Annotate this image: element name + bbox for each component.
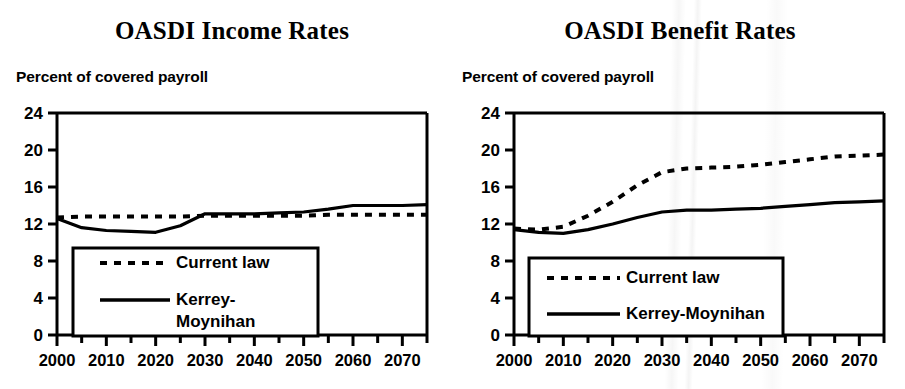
x-axis-tick-label: 2040 <box>693 351 730 369</box>
x-axis-tick-label: 2070 <box>841 351 878 369</box>
x-axis-tick-label: 2020 <box>137 351 174 369</box>
series-line-current-law <box>514 155 884 230</box>
y-axis-tick-label: 16 <box>24 178 43 197</box>
x-axis-tick-label: 2000 <box>496 351 533 369</box>
chart-panel-benefit-rates: OASDI Benefit Rates Percent of covered p… <box>452 0 904 389</box>
x-axis-tick-label: 2040 <box>236 351 273 369</box>
y-axis-tick-label: 16 <box>481 178 500 197</box>
x-axis-tick-label: 2000 <box>39 351 76 369</box>
series-line-kerrey-moynihan <box>57 205 427 233</box>
x-axis-tick-label: 2020 <box>594 351 631 369</box>
plot-area-benefit-rates: 0481216202420002010202020302040205020602… <box>452 0 904 389</box>
x-axis-tick-label: 2060 <box>335 351 372 369</box>
y-axis-tick-label: 8 <box>491 252 500 271</box>
chart-panel-income-rates: OASDI Income Rates Percent of covered pa… <box>0 0 452 389</box>
x-axis-tick-label: 2030 <box>644 351 681 369</box>
legend-label-kerrey-moynihan: Kerrey-Moynihan <box>626 304 765 323</box>
y-axis-tick-label: 8 <box>34 252 43 271</box>
x-axis-tick-label: 2060 <box>792 351 829 369</box>
y-axis-tick-label: 24 <box>24 104 43 123</box>
x-axis-tick-label: 2070 <box>384 351 421 369</box>
x-axis-tick-label: 2030 <box>187 351 224 369</box>
y-axis-tick-label: 20 <box>481 141 500 160</box>
y-axis-tick-label: 24 <box>481 104 500 123</box>
plot-area-income-rates: 0481216202420002010202020302040205020602… <box>0 0 452 389</box>
legend-label-current-law: Current law <box>626 268 720 287</box>
legend-label-kerrey-moynihan-line2: Moynihan <box>176 312 255 331</box>
y-axis-tick-label: 4 <box>491 289 501 308</box>
x-axis-tick-label: 2050 <box>742 351 779 369</box>
y-axis-tick-label: 0 <box>34 326 43 345</box>
y-axis-tick-label: 12 <box>24 215 43 234</box>
legend-label-current-law: Current law <box>176 253 270 272</box>
legend-label-kerrey-moynihan: Kerrey- <box>176 290 236 309</box>
y-axis-tick-label: 20 <box>24 141 43 160</box>
y-axis-tick-label: 12 <box>481 215 500 234</box>
x-axis-tick-label: 2010 <box>545 351 582 369</box>
x-axis-tick-label: 2010 <box>88 351 125 369</box>
y-axis-tick-label: 4 <box>34 289 44 308</box>
y-axis-tick-label: 0 <box>491 326 500 345</box>
series-line-kerrey-moynihan <box>514 201 884 233</box>
x-axis-tick-label: 2050 <box>285 351 322 369</box>
